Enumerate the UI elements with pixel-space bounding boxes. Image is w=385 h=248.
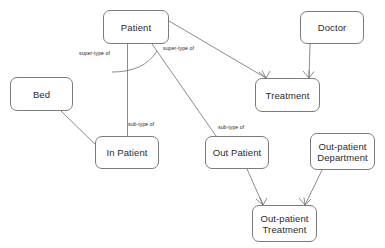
edge-label-super-type-of-1: super-type of (79, 50, 110, 56)
entity-out-patient-label: Out Patient (211, 147, 264, 158)
entity-bed-label: Bed (31, 89, 52, 100)
edge-patient-out-patient (152, 44, 216, 136)
entity-in-patient-label: In Patient (104, 147, 149, 158)
edge-label-super-type-of-2: super-type of (163, 45, 194, 51)
edge-department-treatment (305, 170, 322, 205)
entity-in-patient[interactable]: In Patient (95, 136, 159, 169)
edge-label-sub-type-of-2: sub-type of (218, 124, 244, 130)
entity-out-patient-department-label: Out-patient Department (315, 141, 370, 163)
entity-doctor-label: Doctor (316, 22, 349, 33)
entity-doctor[interactable]: Doctor (300, 11, 364, 44)
crowsfoot-doctor-treatment (303, 71, 314, 79)
entity-out-patient-department[interactable]: Out-patient Department (310, 133, 375, 170)
entity-out-patient-treatment[interactable]: Out-patient Treatment (252, 205, 317, 242)
entity-out-patient-treatment-label: Out-patient Treatment (258, 213, 310, 235)
crowsfoot-outpatient-treatment (256, 198, 267, 206)
entity-out-patient[interactable]: Out Patient (205, 136, 269, 169)
generalization-arc (112, 51, 157, 72)
entity-patient[interactable]: Patient (103, 10, 169, 44)
er-diagram-canvas: Patient Doctor Treatment Bed In Patient … (0, 0, 385, 248)
entity-patient-label: Patient (119, 22, 153, 33)
crowsfoot-patient-treatment (259, 71, 270, 79)
crowsfoot-department-treatment (299, 198, 311, 206)
entity-treatment[interactable]: Treatment (255, 78, 320, 112)
edge-label-sub-type-of-1: sub-type of (128, 121, 154, 127)
entity-bed[interactable]: Bed (10, 77, 73, 111)
entity-treatment-label: Treatment (264, 90, 312, 101)
